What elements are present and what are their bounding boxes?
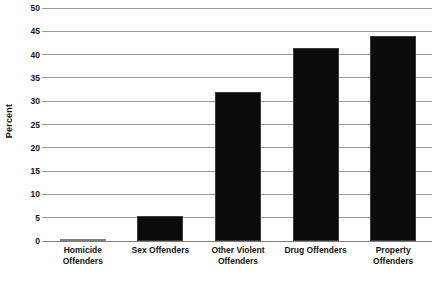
x-tick-label-other-violent-offenders: Other ViolentOffenders	[199, 245, 277, 267]
x-label-line-1: Other Violent	[211, 245, 264, 255]
y-tick-label-5: 5	[10, 213, 40, 223]
y-axis-tick-labels: 05101520253035404550	[14, 8, 40, 241]
x-tick-label-homicide-offenders: HomicideOffenders	[44, 245, 122, 267]
y-tick-label-10: 10	[10, 189, 40, 199]
y-tick-label-30: 30	[10, 96, 40, 106]
y-tick-label-15: 15	[10, 166, 40, 176]
bar-chart: Percent 05101520253035404550 HomicideOff…	[0, 0, 436, 281]
x-label-line-1: Homicide	[64, 245, 102, 255]
y-tick-label-40: 40	[10, 50, 40, 60]
bar-drug-offenders	[293, 48, 339, 241]
bar-homicide-offenders	[60, 239, 106, 241]
x-label-line-1: Sex Offenders	[132, 245, 190, 255]
gridline-50	[44, 8, 432, 9]
x-label-line-2: Offenders	[199, 256, 277, 267]
x-label-line-1: Drug Offenders	[284, 245, 346, 255]
x-label-line-1: Property	[376, 245, 411, 255]
y-tick-label-35: 35	[10, 73, 40, 83]
footer-artifact-text	[48, 273, 428, 280]
x-label-line-2: Offenders	[354, 256, 432, 267]
bar-sex-offenders	[137, 216, 183, 241]
x-tick-label-sex-offenders: Sex Offenders	[122, 245, 200, 256]
bar-other-violent-offenders	[215, 92, 261, 241]
y-tick-label-45: 45	[10, 26, 40, 36]
y-tick-label-20: 20	[10, 143, 40, 153]
plot-area	[44, 8, 432, 241]
y-tick-label-50: 50	[10, 3, 40, 13]
x-tick-label-drug-offenders: Drug Offenders	[277, 245, 355, 256]
x-tick-label-property-offenders: PropertyOffenders	[354, 245, 432, 267]
y-tick-label-25: 25	[10, 120, 40, 130]
bar-property-offenders	[370, 36, 416, 241]
x-label-line-2: Offenders	[44, 256, 122, 267]
y-tick-label-0: 0	[10, 236, 40, 246]
gridline-45	[44, 31, 432, 32]
